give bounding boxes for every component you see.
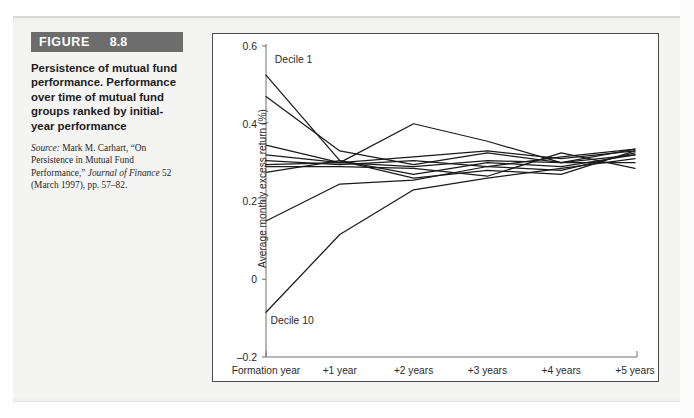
y-axis-title: Average monthly excess return (%) [257, 79, 268, 299]
figure-page: FIGURE 8.8 Persistence of mutual fund pe… [0, 0, 694, 418]
y-axis-tick-label: –0.2 [237, 352, 257, 363]
figure-caption-block: FIGURE 8.8 Persistence of mutual fund pe… [31, 32, 191, 192]
x-axis-tick-label: +3 years [468, 365, 507, 376]
x-axis-tick-label: +2 years [394, 365, 433, 376]
figure-caption-title: Persistence of mutual fund performance. … [31, 61, 183, 133]
figure-banner-word: FIGURE [31, 35, 90, 49]
y-axis-tick-label: 0.2 [243, 196, 258, 207]
x-axis-tick-label: +1 year [323, 365, 358, 376]
page-right-margin [680, 0, 694, 418]
line-chart-svg: 0.60.40.20–0.2Formation year+1 year+2 ye… [212, 33, 659, 382]
y-axis-tick-label: 0.6 [243, 41, 258, 52]
x-axis-tick-label: Formation year [232, 365, 301, 376]
source-prefix: Source: [31, 143, 60, 153]
series-annotation-label: Decile 1 [275, 54, 313, 65]
series-annotation-label: Decile 10 [270, 315, 314, 326]
figure-banner-number: 8.8 [110, 35, 127, 49]
y-axis-tick-label: 0.4 [243, 119, 258, 130]
chart-container: Average monthly excess return (%) 0.60.4… [212, 33, 659, 382]
data-series-line [266, 159, 635, 313]
source-journal-name: Journal of Finance [88, 168, 160, 178]
x-axis-tick-label: +4 years [542, 365, 581, 376]
figure-source-note: Source: Mark M. Carhart, “On Persistence… [31, 142, 185, 192]
page-left-margin [0, 0, 13, 418]
x-axis-tick-label: +5 years [615, 365, 654, 376]
figure-banner: FIGURE 8.8 [31, 32, 183, 52]
